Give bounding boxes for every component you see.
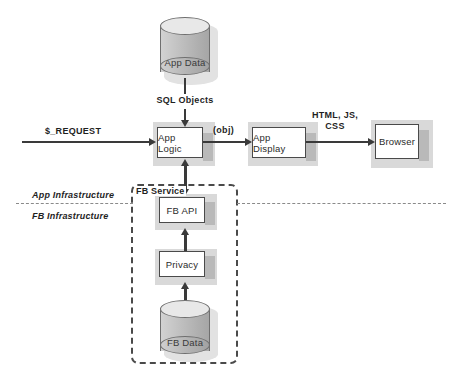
arrowhead-into-privacy-bottom xyxy=(181,282,189,289)
arrowhead-into-app-logic-bottom xyxy=(181,159,189,166)
group-fb-service-label: FB Service xyxy=(135,186,186,196)
edge-label-html-js-line2: CSS xyxy=(295,121,375,131)
infrastructure-divider-left xyxy=(16,203,133,204)
zone-label-fb-infrastructure: FB Infrastructure xyxy=(32,211,108,221)
diagram-canvas: App Data SQL Objects $_REQUEST App Logic… xyxy=(0,0,451,381)
app-display-shadow xyxy=(306,133,316,161)
node-browser[interactable]: Browser xyxy=(375,124,419,159)
datastore-app-data-label: App Data xyxy=(160,57,210,68)
datastore-fb-data-label: FB Data xyxy=(160,337,210,348)
edge-label-sql-objects: SQL Objects xyxy=(140,95,230,105)
cylinder-top-ellipse xyxy=(160,17,210,35)
edge-label-html-js-line1: HTML, JS, xyxy=(295,110,375,120)
node-app-display[interactable]: App Display xyxy=(252,127,306,158)
edge-label-request: $_REQUEST xyxy=(45,126,101,136)
edge-appdata-to-applogic-upper xyxy=(184,78,186,94)
arrowhead-into-app-logic-top xyxy=(181,120,189,127)
node-privacy[interactable]: Privacy xyxy=(159,251,205,277)
cylinder-top-ellipse xyxy=(160,300,210,318)
edge-app-display-to-browser xyxy=(306,141,369,143)
edge-app-logic-to-app-display xyxy=(203,141,246,143)
datastore-app-data: App Data xyxy=(160,17,210,80)
node-app-logic[interactable]: App Logic xyxy=(157,127,203,158)
infrastructure-divider-right xyxy=(237,203,446,204)
edge-label-obj: (obj) xyxy=(213,125,234,135)
datastore-fb-data: FB Data xyxy=(160,300,210,358)
edge-request-to-app-logic xyxy=(22,141,150,143)
node-fb-api[interactable]: FB API xyxy=(159,197,205,223)
arrowhead-into-fb-api-bottom xyxy=(181,228,189,235)
arrowhead-into-app-logic-left xyxy=(149,138,156,146)
arrowhead-into-app-display xyxy=(245,138,252,146)
browser-shadow xyxy=(419,130,429,161)
app-logic-shadow xyxy=(203,133,213,161)
zone-label-app-infrastructure: App Infrastructure xyxy=(32,190,114,200)
arrowhead-into-browser xyxy=(368,138,375,146)
